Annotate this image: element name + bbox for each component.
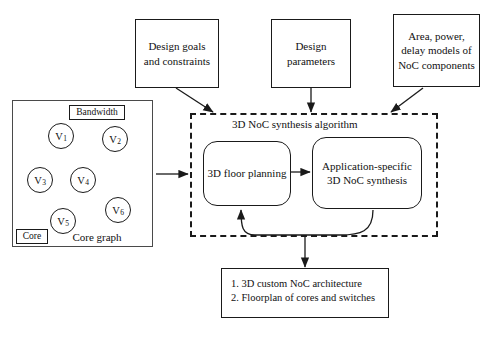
core-graph-caption-text: Core graph bbox=[72, 231, 121, 243]
stage-label-noc-synthesis: Application-specific 3D NoC synthesis bbox=[322, 159, 412, 188]
graph-node-v2-label: V bbox=[109, 134, 117, 145]
graph-node-v4-label: V bbox=[77, 175, 85, 186]
input-box-noc-models[interactable]: Area, power, delay models of NoC compone… bbox=[393, 14, 480, 87]
graph-node-v5-label: V bbox=[57, 216, 65, 227]
graph-node-v5-subscript: 5 bbox=[65, 219, 69, 228]
graph-node-v3-label: V bbox=[34, 175, 42, 186]
input-box-design-parameters[interactable]: Design parameters bbox=[271, 19, 351, 88]
input-label-design-parameters: Design parameters bbox=[287, 39, 335, 67]
graph-node-v1-label: V bbox=[55, 131, 63, 142]
stage-box-noc-synthesis[interactable]: Application-specific 3D NoC synthesis bbox=[312, 137, 422, 209]
diagram-canvas: Design goals and constraints Design para… bbox=[0, 0, 489, 341]
graph-node-v3-subscript: 3 bbox=[42, 178, 46, 187]
graph-node-v1[interactable]: V1 bbox=[48, 123, 74, 149]
graph-node-v2[interactable]: V2 bbox=[102, 126, 128, 152]
output-box[interactable]: 1. 3D custom NoC architecture 2. Floorpl… bbox=[221, 268, 389, 318]
core-label: Core bbox=[23, 232, 41, 242]
graph-node-v4-subscript: 4 bbox=[85, 178, 89, 187]
graph-node-v2-subscript: 2 bbox=[117, 137, 121, 146]
input-label-noc-models: Area, power, delay models of NoC compone… bbox=[398, 29, 475, 71]
bandwidth-annotation-box: Bandwidth bbox=[69, 105, 125, 120]
stage-label-floor-planning: 3D floor planning bbox=[208, 166, 287, 180]
input-box-design-goals[interactable]: Design goals and constraints bbox=[135, 19, 219, 88]
algorithm-title: 3D NoC synthesis algorithm bbox=[232, 118, 358, 130]
stage-box-floor-planning[interactable]: 3D floor planning bbox=[203, 141, 291, 206]
graph-node-v6-subscript: 6 bbox=[120, 208, 124, 217]
output-line-2: 2. Floorplan of cores and switches bbox=[231, 291, 379, 305]
algorithm-title-text: 3D NoC synthesis algorithm bbox=[232, 118, 358, 130]
connector-noc-models-to-algorithm bbox=[391, 88, 423, 112]
graph-node-v5[interactable]: V5 bbox=[50, 208, 76, 234]
input-label-design-goals: Design goals and constraints bbox=[144, 39, 210, 67]
graph-node-v4[interactable]: V4 bbox=[70, 167, 96, 193]
output-line-1: 1. 3D custom NoC architecture bbox=[231, 277, 379, 291]
connector-design-goals-to-algorithm bbox=[176, 88, 213, 112]
graph-node-v6[interactable]: V6 bbox=[105, 197, 131, 223]
core-annotation-box: Core bbox=[16, 229, 48, 244]
graph-node-v1-subscript: 1 bbox=[63, 134, 67, 143]
graph-node-v6-label: V bbox=[112, 205, 120, 216]
bandwidth-label: Bandwidth bbox=[76, 108, 118, 118]
graph-node-v3[interactable]: V3 bbox=[27, 167, 53, 193]
